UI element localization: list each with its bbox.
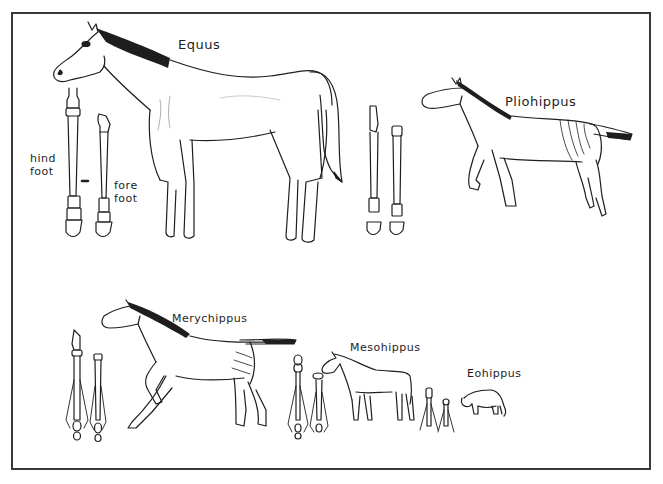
eohippus-foot-bones <box>420 388 454 432</box>
horse-evolution-illustration <box>0 0 663 484</box>
label-hind-line1: hind <box>30 152 56 165</box>
label-fore-foot: fore foot <box>114 179 138 205</box>
equus-horse-drawing <box>54 22 342 242</box>
merychippus-foot-bones <box>66 330 106 442</box>
mesohippus-horse-drawing <box>322 352 414 420</box>
eohippus-horse-drawing <box>461 390 505 416</box>
label-fore-line1: fore <box>114 179 138 192</box>
label-hind-foot: hind foot <box>30 152 56 178</box>
equus-fore-foot-bones <box>96 114 112 237</box>
label-fore-line2: foot <box>114 192 138 205</box>
label-merychippus: Merychippus <box>172 313 248 324</box>
label-mesohippus: Mesohippus <box>350 342 420 353</box>
equus-hind-foot-bones <box>66 88 82 237</box>
pliohippus-foot-bones <box>367 106 404 235</box>
label-equus: Equus <box>178 38 220 51</box>
label-pliohippus: Pliohippus <box>505 95 576 108</box>
label-eohippus: Eohippus <box>467 368 521 379</box>
label-hind-line2: foot <box>30 165 56 178</box>
